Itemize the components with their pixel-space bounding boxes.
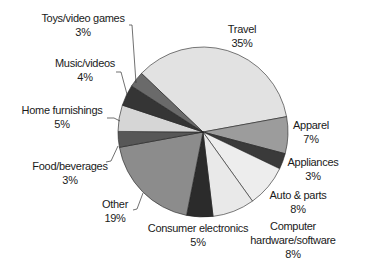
slice-label-percent: 5%	[148, 235, 248, 249]
slice-label-name: Apparel	[293, 118, 329, 132]
slice-label-percent: 4%	[55, 70, 115, 84]
slice-label: Travel35%	[228, 22, 256, 50]
slice-label-name: Music/videos	[55, 56, 115, 70]
slice-label-name: Food/beverages	[32, 159, 107, 173]
slice-label-percent: 8%	[270, 202, 327, 216]
slice-label-percent: 3%	[32, 173, 107, 187]
slice-label-percent: 7%	[293, 132, 329, 146]
slice-label-percent: 35%	[228, 36, 256, 50]
slice-label: Food/beverages3%	[32, 159, 107, 187]
leader-line	[106, 146, 118, 162]
slice-label-name: Travel	[228, 22, 256, 36]
slice-label: Auto & parts8%	[270, 188, 327, 216]
slice-label: Computerhardware/software8%	[250, 219, 335, 261]
slice-label-percent: 3%	[41, 25, 124, 39]
slice-label-name: Toys/video games	[41, 11, 124, 25]
slice-label: Other19%	[102, 197, 128, 225]
leader-line	[133, 193, 143, 210]
slice-label-percent: 5%	[22, 117, 103, 131]
leader-line	[116, 72, 128, 98]
slice-label-percent: 3%	[288, 169, 339, 183]
pie-slices	[118, 47, 288, 217]
leader-line	[107, 118, 120, 121]
slice-label-name: Other	[102, 197, 128, 211]
slice-label: Toys/video games3%	[41, 11, 124, 39]
slice-label: Appliances3%	[288, 155, 339, 183]
slice-label: Consumer electronics5%	[148, 221, 248, 249]
slice-label-percent: 8%	[250, 247, 335, 261]
slice-label: Music/videos4%	[55, 56, 115, 84]
slice-label-percent: 19%	[102, 211, 128, 225]
slice-label-name: Auto & parts	[270, 188, 327, 202]
slice-label-name: Home furnishings	[22, 103, 103, 117]
slice-label-name: Computer	[250, 219, 335, 233]
slice-label-name: hardware/software	[250, 233, 335, 247]
leader-line	[129, 25, 136, 83]
slice-label-name: Consumer electronics	[148, 221, 248, 235]
slice-label-name: Appliances	[288, 155, 339, 169]
slice-label: Apparel7%	[293, 118, 329, 146]
slice-label: Home furnishings5%	[22, 103, 103, 131]
